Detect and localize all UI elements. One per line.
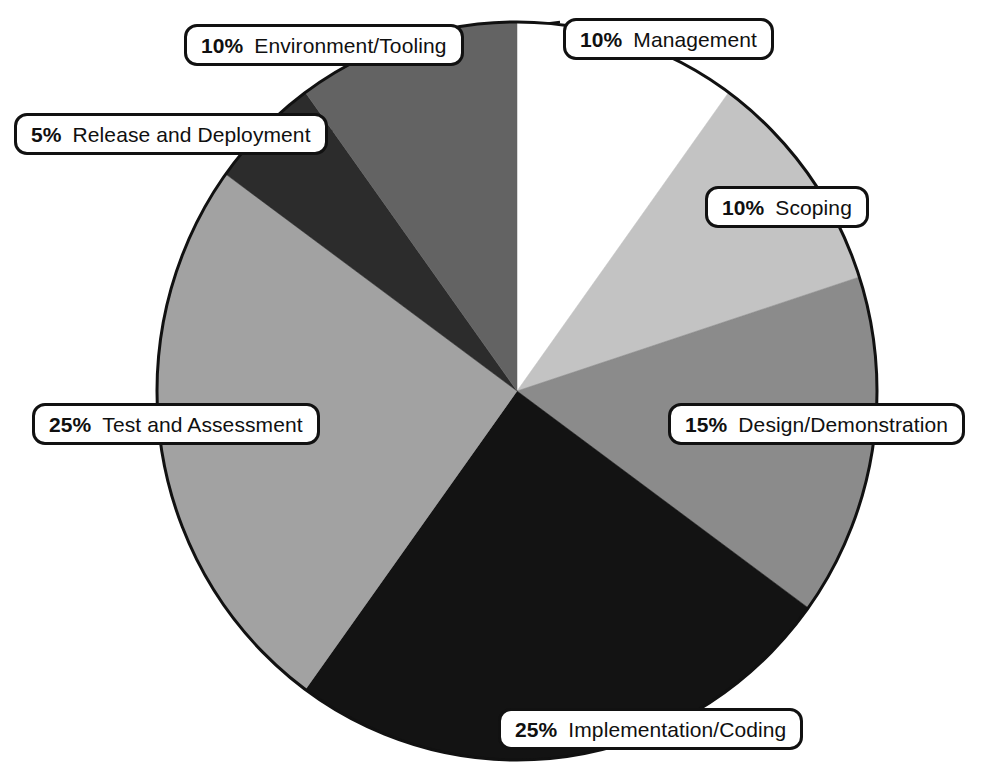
pie-chart-figure: 10% Management 10% Environment/Tooling 5… xyxy=(0,0,982,778)
callout-test-assessment[interactable]: 25% Test and Assessment xyxy=(32,403,320,445)
callout-scoping-percent: 10% xyxy=(722,197,764,218)
callout-design-demonstration[interactable]: 15% Design/Demonstration xyxy=(668,403,965,445)
callout-test-assessment-percent: 25% xyxy=(49,414,91,435)
callout-release-deployment-label: Release and Deployment xyxy=(73,124,311,145)
callout-implementation-coding-label: Implementation/Coding xyxy=(568,719,786,740)
callout-release-deployment-percent: 5% xyxy=(31,124,62,145)
callout-design-demonstration-label: Design/Demonstration xyxy=(738,414,948,435)
callout-environment-tooling[interactable]: 10% Environment/Tooling xyxy=(184,24,464,66)
callout-environment-tooling-percent: 10% xyxy=(201,35,243,56)
callout-implementation-coding-percent: 25% xyxy=(515,719,557,740)
callout-implementation-coding[interactable]: 25% Implementation/Coding xyxy=(498,708,803,750)
callout-environment-tooling-label: Environment/Tooling xyxy=(254,35,446,56)
callout-scoping-label: Scoping xyxy=(775,197,852,218)
callout-scoping[interactable]: 10% Scoping xyxy=(705,186,869,228)
callout-design-demonstration-percent: 15% xyxy=(685,414,727,435)
callout-release-deployment[interactable]: 5% Release and Deployment xyxy=(14,113,328,155)
callout-test-assessment-label: Test and Assessment xyxy=(102,414,302,435)
callout-management-label: Management xyxy=(633,29,757,50)
callout-management-percent: 10% xyxy=(580,29,622,50)
callout-management[interactable]: 10% Management xyxy=(563,18,774,60)
